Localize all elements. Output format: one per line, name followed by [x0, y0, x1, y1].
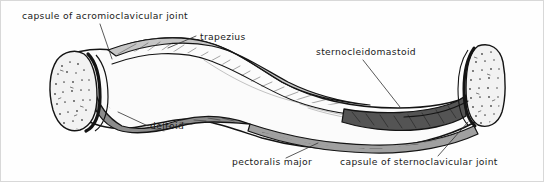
- label-capsule-sternoclavicular-joint: capsule of sternoclavicular joint: [340, 156, 498, 167]
- label-capsule-acromioclavicular-joint: capsule of acromioclavicular joint: [22, 10, 188, 21]
- leader-sternocleidomastoid: [363, 60, 400, 107]
- clavicle-illustration: capsule of acromioclavicular joint trape…: [0, 0, 544, 182]
- label-trapezius: trapezius: [200, 31, 246, 42]
- label-deltoid: deltoid: [150, 120, 184, 131]
- label-sternocleidomastoid: sternocleidomastoid: [316, 46, 416, 57]
- clavicle-bone: [50, 38, 505, 153]
- label-pectoralis-major: pectoralis major: [232, 156, 312, 167]
- anatomy-figure: capsule of acromioclavicular joint trape…: [0, 0, 544, 182]
